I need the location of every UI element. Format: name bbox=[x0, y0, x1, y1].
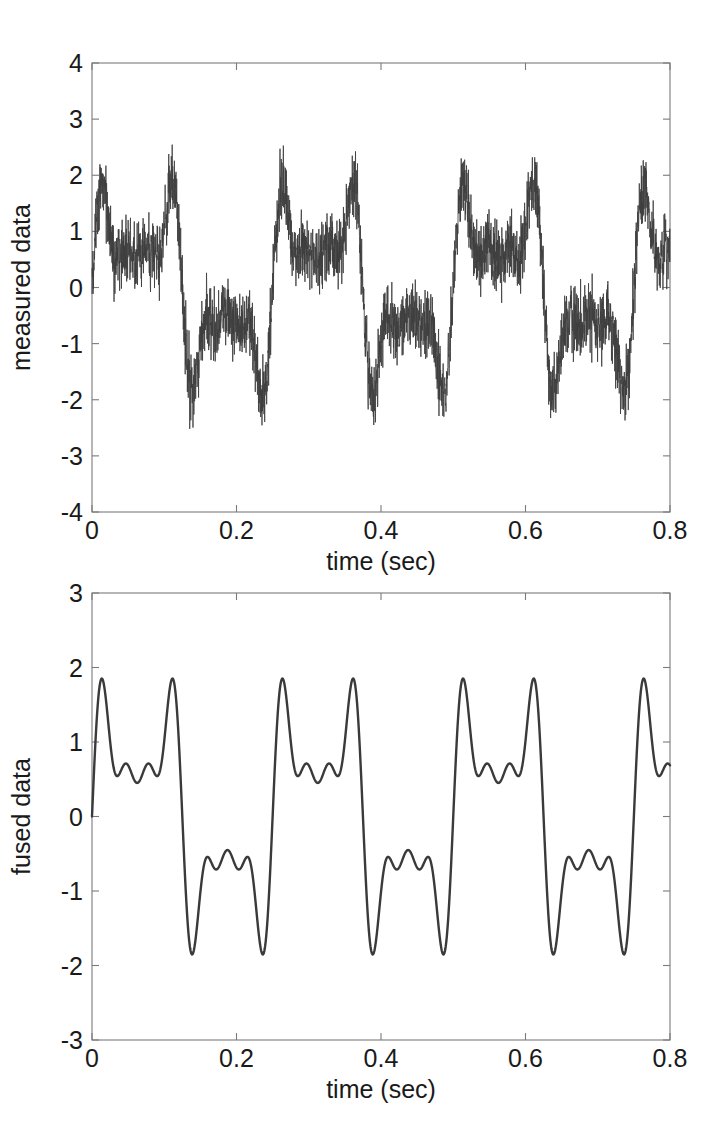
x-tick-label: 0.2 bbox=[219, 1044, 254, 1072]
x-tick-label: 0 bbox=[85, 516, 99, 544]
measured-data-panel: 00.20.40.60.8-4-3-2-101234time (sec)meas… bbox=[0, 0, 724, 572]
fused-data-plot: 00.20.40.60.8-3-2-10123time (sec)fused d… bbox=[0, 572, 724, 1144]
signal-path bbox=[92, 145, 670, 429]
plot-border bbox=[92, 63, 670, 512]
y-tick-label: -4 bbox=[61, 498, 83, 526]
y-tick-label: -1 bbox=[61, 877, 83, 905]
x-tick-label: 0.8 bbox=[653, 1044, 688, 1072]
fused-data-panel: 00.20.40.60.8-3-2-10123time (sec)fused d… bbox=[0, 572, 724, 1144]
y-tick-label: -3 bbox=[61, 442, 83, 470]
figure-canvas: 00.20.40.60.8-4-3-2-101234time (sec)meas… bbox=[0, 0, 724, 1144]
x-tick-label: 0.6 bbox=[508, 516, 543, 544]
y-tick-label: -3 bbox=[61, 1026, 83, 1054]
y-tick-label: 2 bbox=[69, 161, 83, 189]
y-tick-label: -1 bbox=[61, 330, 83, 358]
x-tick-label: 0 bbox=[85, 1044, 99, 1072]
y-tick-label: 1 bbox=[69, 728, 83, 756]
fused-data-axes bbox=[92, 593, 670, 1040]
y-tick-label: 4 bbox=[69, 49, 83, 77]
x-tick-label: 0.2 bbox=[219, 516, 254, 544]
x-tick-label: 0.8 bbox=[653, 516, 688, 544]
x-tick-label: 0.4 bbox=[364, 1044, 399, 1072]
y-tick-label: 2 bbox=[69, 654, 83, 682]
x-tick-label: 0.6 bbox=[508, 1044, 543, 1072]
y-tick-label: -2 bbox=[61, 386, 83, 414]
x-axis-label: time (sec) bbox=[326, 1075, 436, 1103]
y-tick-label: 0 bbox=[69, 274, 83, 302]
y-axis-label: measured data bbox=[7, 204, 35, 371]
y-tick-label: 1 bbox=[69, 217, 83, 245]
y-axis-label: fused data bbox=[7, 758, 35, 875]
x-tick-label: 0.4 bbox=[364, 516, 399, 544]
measured-data-plot: 00.20.40.60.8-4-3-2-101234time (sec)meas… bbox=[0, 0, 724, 572]
measured-data-axes bbox=[92, 63, 670, 512]
y-tick-label: -2 bbox=[61, 952, 83, 980]
x-axis-label: time (sec) bbox=[326, 547, 436, 575]
plot-border bbox=[92, 593, 670, 1040]
measured-data-trace bbox=[92, 145, 670, 429]
y-tick-label: 3 bbox=[69, 579, 83, 607]
fused-data-ticks bbox=[92, 593, 670, 1040]
y-tick-label: 3 bbox=[69, 105, 83, 133]
fused-data-labels: 00.20.40.60.8-3-2-10123time (sec)fused d… bbox=[7, 579, 687, 1103]
fused-data-trace bbox=[92, 679, 670, 955]
measured-data-ticks bbox=[92, 63, 670, 512]
signal-path bbox=[92, 679, 670, 955]
y-tick-label: 0 bbox=[69, 803, 83, 831]
